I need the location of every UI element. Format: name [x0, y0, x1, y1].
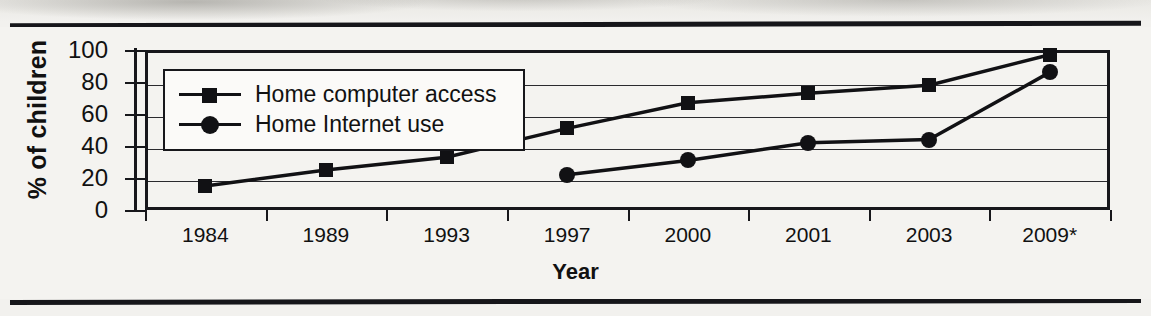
- y-tick-mark: [125, 114, 145, 116]
- y-tick-label: 0: [22, 198, 108, 222]
- y-tick-label: 100: [22, 38, 108, 62]
- x-tick-label: 1989: [266, 223, 386, 247]
- square-data-marker: [560, 121, 574, 135]
- x-tick-mark: [507, 210, 509, 221]
- page-rule-bottom: [10, 298, 1141, 305]
- x-tick-label: 1984: [145, 223, 265, 247]
- chart-legend: Home computer access Home Internet use: [163, 69, 525, 151]
- square-data-marker: [801, 86, 815, 100]
- legend-item-label: Home computer access: [255, 81, 497, 108]
- x-tick-mark: [748, 210, 750, 221]
- y-tick-mark: [125, 50, 145, 52]
- square-data-marker: [198, 179, 212, 193]
- y-tick-label: 60: [22, 102, 108, 126]
- y-tick-mark: [125, 146, 145, 148]
- circle-data-marker: [921, 132, 937, 148]
- line-chart-figure: % of children Year 020406080100 19841989…: [0, 27, 1151, 299]
- x-tick-label: 2001: [748, 223, 868, 247]
- y-axis-spine: [134, 48, 137, 212]
- square-data-marker: [319, 163, 333, 177]
- square-data-marker: [1043, 48, 1057, 62]
- x-tick-mark: [386, 210, 388, 221]
- x-tick-mark: [266, 210, 268, 221]
- y-tick-label: 20: [22, 166, 108, 190]
- y-tick-label: 40: [22, 134, 108, 158]
- x-tick-label: 1997: [507, 223, 627, 247]
- x-tick-label: 2003: [869, 223, 989, 247]
- x-tick-mark: [989, 210, 991, 221]
- y-tick-mark: [125, 82, 145, 84]
- x-tick-label: 2009*: [990, 223, 1110, 247]
- legend-item-label: Home Internet use: [255, 111, 444, 138]
- square-data-marker: [440, 150, 454, 164]
- circle-data-marker: [559, 167, 575, 183]
- x-tick-label: 2000: [628, 223, 748, 247]
- legend-item: Home Internet use: [179, 109, 497, 139]
- y-tick-label: 80: [22, 70, 108, 94]
- square-data-marker: [922, 78, 936, 92]
- circle-data-marker: [1042, 64, 1058, 80]
- x-tick-label: 1993: [387, 223, 507, 247]
- square-marker-icon: [179, 85, 241, 103]
- x-tick-mark: [628, 210, 630, 221]
- y-tick-mark: [125, 210, 145, 212]
- circle-marker-icon: [179, 115, 241, 133]
- x-tick-mark: [869, 210, 871, 221]
- x-tick-mark: [1110, 210, 1112, 221]
- page-scan-smudge: [0, 0, 1151, 22]
- legend-item: Home computer access: [179, 79, 497, 109]
- y-tick-mark: [125, 178, 145, 180]
- square-data-marker: [681, 96, 695, 110]
- x-axis-title: Year: [0, 259, 1151, 285]
- x-tick-mark: [145, 210, 147, 221]
